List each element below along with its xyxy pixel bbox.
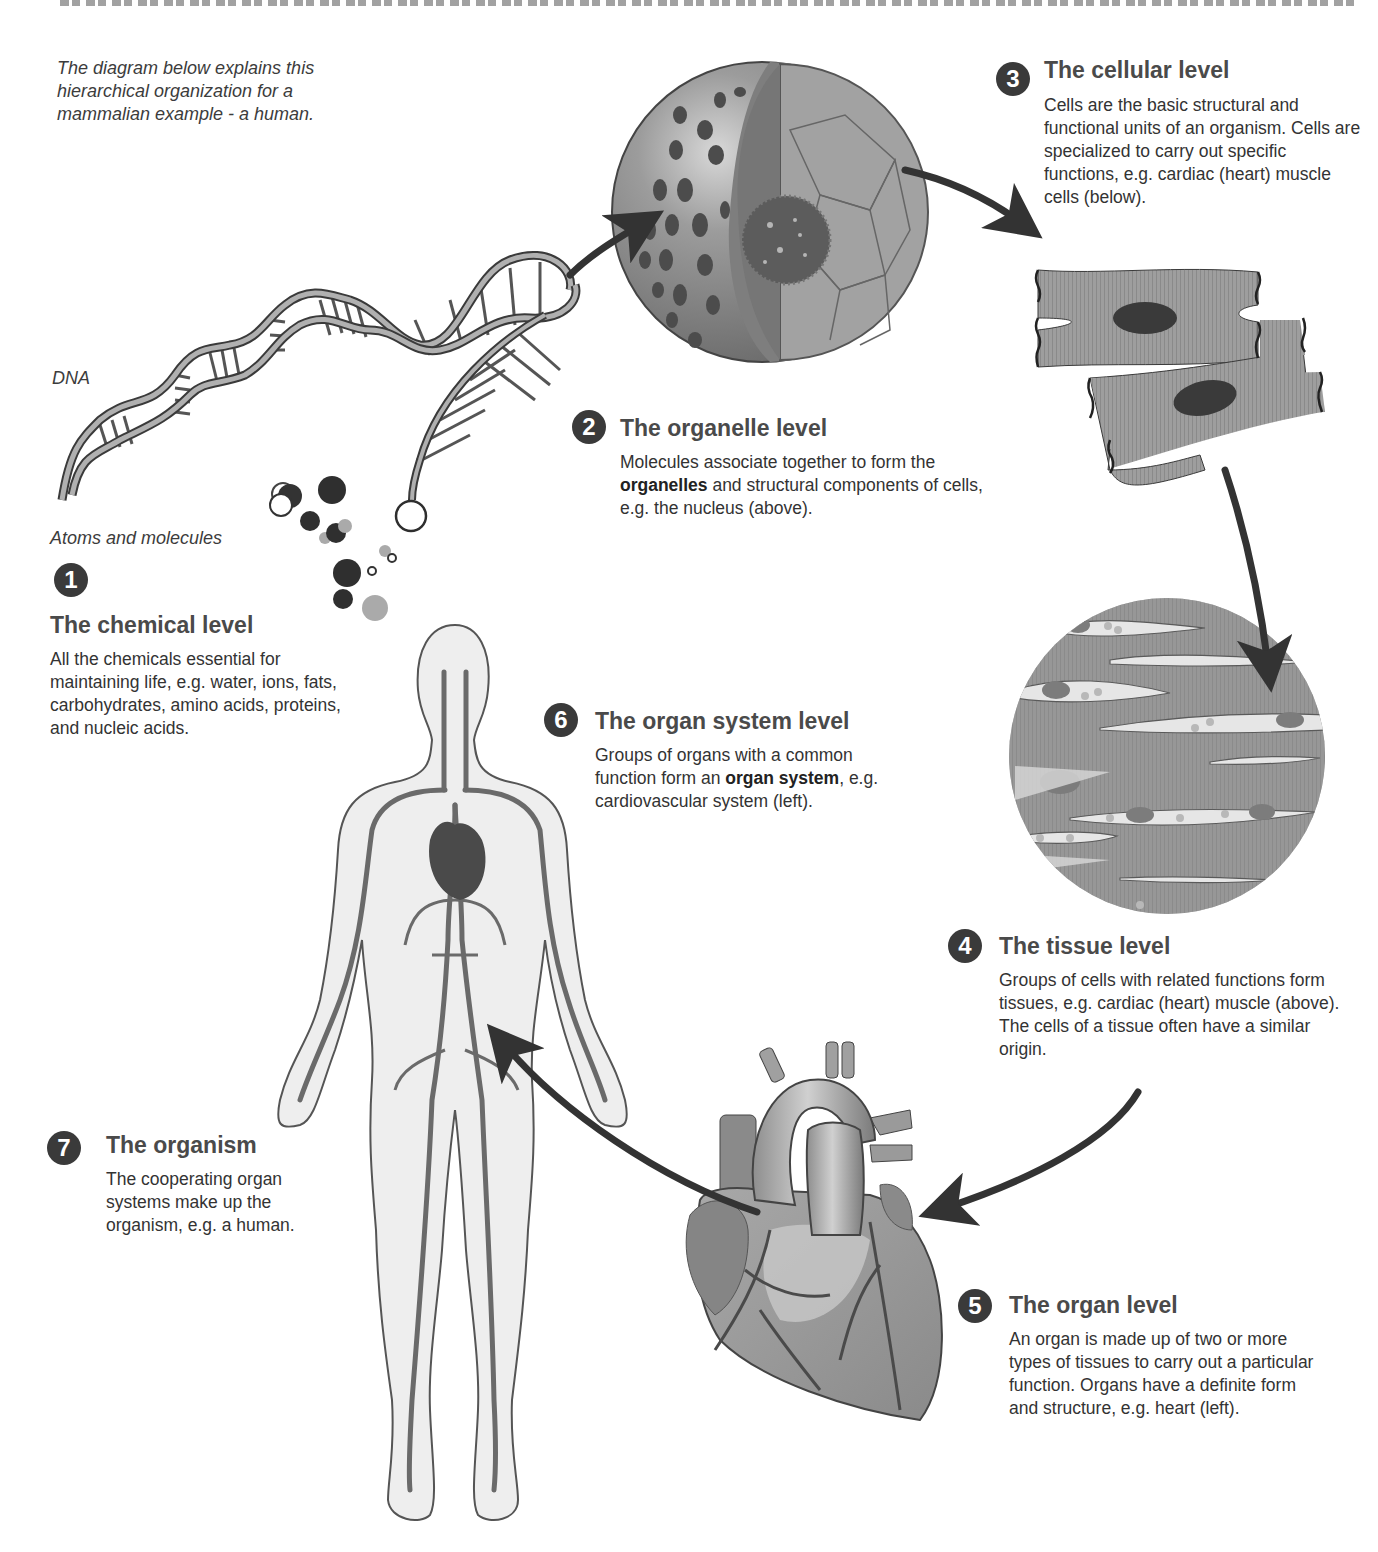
level-6-highlight: organ system <box>725 768 839 788</box>
level-5-title: The organ level <box>1009 1291 1178 1319</box>
level-3-badge: 3 <box>996 62 1030 96</box>
level-1-title: The chemical level <box>50 611 253 639</box>
level-3-description: Cells are the basic structural and funct… <box>1044 94 1364 209</box>
level-5-badge: 5 <box>958 1289 992 1323</box>
cardiac-cells-icon <box>1036 269 1325 485</box>
heart-icon <box>686 1042 942 1420</box>
atoms-molecules-label: Atoms and molecules <box>50 527 222 550</box>
human-body-icon <box>278 625 627 1520</box>
dna-label: DNA <box>52 367 90 390</box>
level-2-title: The organelle level <box>620 414 827 442</box>
level-3-title: The cellular level <box>1044 56 1229 84</box>
level-2-badge: 2 <box>572 410 606 444</box>
level-2-description: Molecules associate together to form the… <box>620 451 995 520</box>
intro-note: The diagram below explains this hierarch… <box>57 57 387 126</box>
level-6-description: Groups of organs with a common function … <box>595 744 915 813</box>
level-7-title: The organism <box>106 1131 257 1159</box>
nucleus-icon <box>612 62 928 362</box>
level-6-badge: 6 <box>544 703 578 737</box>
level-6-title: The organ system level <box>595 707 849 735</box>
level-1-description: All the chemicals essential for maintain… <box>50 648 360 740</box>
level-2-description-text: Molecules associate together to form the <box>620 452 935 472</box>
level-7-badge: 7 <box>47 1131 81 1165</box>
level-4-badge: 4 <box>948 929 982 963</box>
level-5-description: An organ is made up of two or more types… <box>1009 1328 1329 1420</box>
level-1-badge: 1 <box>54 563 88 597</box>
cardiac-tissue-icon <box>1000 590 1340 930</box>
level-4-title: The tissue level <box>999 932 1170 960</box>
level-2-highlight: organelles <box>620 475 708 495</box>
atoms-molecules-icon <box>270 476 396 621</box>
level-4-description: Groups of cells with related functions f… <box>999 969 1344 1061</box>
level-7-description: The cooperating organ systems make up th… <box>106 1168 321 1237</box>
